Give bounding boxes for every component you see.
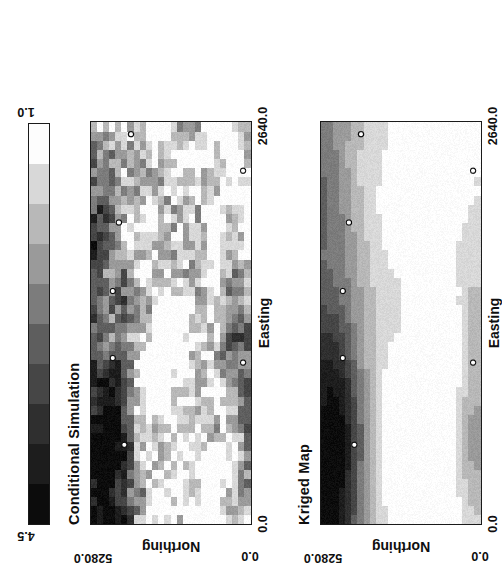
plot-area-conditional-simulation — [90, 121, 252, 525]
colorbar-band-8 — [29, 164, 49, 204]
colorbar-gradient — [28, 123, 50, 525]
colorbar-band-9 — [29, 124, 49, 164]
colorbar-max-label: 4.5 — [6, 529, 46, 543]
ytick-bottom-conditional-simulation: 0.0 — [235, 549, 265, 563]
xtick-min-kriged-map: 0.0 — [486, 508, 500, 540]
ytick-bottom-kriged-map: 0.0 — [465, 549, 495, 563]
colorbar-band-2 — [29, 404, 49, 444]
panel-title-conditional-simulation: Conditional Simulation — [66, 363, 82, 525]
colorbar-band-4 — [29, 324, 49, 364]
xtick-min-conditional-simulation: 0.0 — [256, 508, 270, 540]
xtick-max-conditional-simulation: 2640.0 — [256, 95, 270, 157]
colorbar-band-0 — [29, 484, 49, 524]
conditional-simulation-grid — [91, 122, 251, 524]
colorbar-band-6 — [29, 244, 49, 284]
xlabel-kriged-map: Easting — [486, 288, 502, 358]
colorbar — [28, 123, 50, 525]
colorbar-min-label: 1.0 — [6, 105, 46, 119]
colorbar-band-5 — [29, 284, 49, 324]
panel-title-kriged-map: Kriged Map — [296, 444, 312, 525]
colorbar-band-1 — [29, 444, 49, 484]
ylabel-conditional-simulation: Northing — [136, 539, 206, 555]
kriged-map-grid — [321, 122, 481, 524]
colorbar-band-3 — [29, 364, 49, 404]
ylabel-kriged-map: Northing — [366, 539, 436, 555]
ytick-top-conditional-simulation: 5280.0 — [62, 551, 124, 565]
xtick-max-kriged-map: 2640.0 — [486, 95, 500, 157]
ytick-top-kriged-map: 5280.0 — [292, 551, 354, 565]
colorbar-band-7 — [29, 204, 49, 244]
xlabel-conditional-simulation: Easting — [256, 288, 272, 358]
plot-area-kriged-map — [320, 121, 482, 525]
